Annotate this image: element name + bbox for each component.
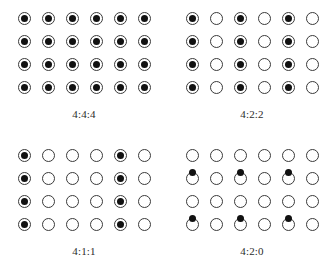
luma-sample-circle-icon: [114, 172, 127, 185]
luma-sample-circle-icon: [186, 35, 199, 48]
luma-sample-circle-icon: [114, 12, 127, 25]
sample-cell: [306, 35, 319, 48]
chroma-sample-dot-icon: [189, 38, 196, 45]
chroma-sample-dot-icon: [141, 61, 148, 68]
luma-sample-circle-icon: [258, 35, 271, 48]
luma-sample-circle-icon: [90, 195, 103, 208]
chroma-sample-dot-icon: [45, 84, 52, 91]
chroma-sample-dot-icon: [21, 15, 28, 22]
luma-sample-circle-icon: [42, 218, 55, 231]
chroma-sample-dot-icon: [237, 61, 244, 68]
luma-sample-circle-icon: [18, 172, 31, 185]
luma-sample-circle-icon: [138, 172, 151, 185]
chroma-sample-dot-icon: [117, 175, 124, 182]
luma-sample-circle-icon: [306, 12, 319, 25]
chroma-sample-dot-icon: [21, 38, 28, 45]
sample-grid-444: [0, 12, 168, 104]
luma-sample-circle-icon: [138, 149, 151, 162]
sample-cell: [306, 58, 319, 71]
sample-cell: [66, 81, 79, 94]
luma-sample-circle-icon: [186, 12, 199, 25]
sample-cell: [282, 149, 295, 162]
panel-411: 4:1:1: [0, 137, 168, 274]
luma-sample-circle-icon: [210, 218, 223, 231]
luma-sample-circle-icon: [114, 218, 127, 231]
sample-cell: [66, 218, 79, 231]
luma-sample-circle-icon: [258, 195, 271, 208]
chroma-sample-dot-icon: [141, 38, 148, 45]
luma-sample-circle-icon: [114, 35, 127, 48]
luma-sample-circle-icon: [186, 149, 199, 162]
luma-sample-circle-icon: [42, 81, 55, 94]
sample-cell: [258, 12, 271, 25]
luma-sample-circle-icon: [210, 58, 223, 71]
luma-sample-circle-icon: [66, 81, 79, 94]
chroma-sample-dot-icon: [189, 215, 196, 222]
sample-cell: [282, 35, 295, 48]
sample-cell: [18, 12, 31, 25]
luma-sample-circle-icon: [210, 35, 223, 48]
sample-cell: [186, 58, 199, 71]
luma-sample-circle-icon: [42, 12, 55, 25]
luma-sample-circle-icon: [114, 81, 127, 94]
sample-cell: [18, 195, 31, 208]
luma-sample-circle-icon: [258, 58, 271, 71]
luma-sample-circle-icon: [306, 218, 319, 231]
sample-cell: [114, 172, 127, 185]
luma-sample-circle-icon: [282, 12, 295, 25]
luma-sample-circle-icon: [66, 172, 79, 185]
luma-sample-circle-icon: [138, 35, 151, 48]
sample-grid-411: [0, 149, 168, 241]
luma-sample-circle-icon: [210, 172, 223, 185]
sample-cell: [18, 58, 31, 71]
sample-cell: [90, 12, 103, 25]
panel-444: 4:4:4: [0, 0, 168, 137]
luma-sample-circle-icon: [210, 81, 223, 94]
luma-sample-circle-icon: [234, 81, 247, 94]
sample-cell: [210, 195, 223, 208]
sample-cell: [42, 58, 55, 71]
sample-cell: [234, 58, 247, 71]
chroma-sample-dot-icon: [237, 84, 244, 91]
sample-cell: [210, 81, 223, 94]
sample-cell: [186, 81, 199, 94]
sample-cell: [306, 218, 319, 231]
sample-cell: [42, 81, 55, 94]
sample-cell: [18, 218, 31, 231]
panel-label-411: 4:1:1: [0, 245, 168, 257]
sample-cell: [138, 35, 151, 48]
sample-cell: [90, 58, 103, 71]
luma-sample-circle-icon: [186, 195, 199, 208]
luma-sample-circle-icon: [282, 81, 295, 94]
sample-cell: [18, 172, 31, 185]
chroma-sample-dot-icon: [21, 198, 28, 205]
chroma-sample-dot-icon: [117, 152, 124, 159]
luma-sample-circle-icon: [90, 35, 103, 48]
chroma-sample-dot-icon: [285, 215, 292, 222]
sample-cell: [210, 35, 223, 48]
luma-sample-circle-icon: [138, 218, 151, 231]
sample-cell: [18, 35, 31, 48]
chroma-sample-dot-icon: [117, 84, 124, 91]
luma-sample-circle-icon: [282, 149, 295, 162]
luma-sample-circle-icon: [18, 195, 31, 208]
luma-sample-circle-icon: [18, 218, 31, 231]
luma-sample-circle-icon: [258, 149, 271, 162]
luma-sample-circle-icon: [186, 58, 199, 71]
luma-sample-circle-icon: [138, 58, 151, 71]
luma-sample-circle-icon: [258, 172, 271, 185]
luma-sample-circle-icon: [306, 81, 319, 94]
luma-sample-circle-icon: [234, 58, 247, 71]
sample-cell: [282, 58, 295, 71]
sample-cell: [282, 12, 295, 25]
luma-sample-circle-icon: [66, 35, 79, 48]
luma-sample-circle-icon: [18, 149, 31, 162]
sample-cell: [114, 12, 127, 25]
luma-sample-circle-icon: [234, 35, 247, 48]
chroma-sample-dot-icon: [21, 221, 28, 228]
luma-sample-circle-icon: [210, 149, 223, 162]
sample-cell: [210, 149, 223, 162]
chroma-subsampling-figure: 4:4:4 4:2:2 4:1:1 4:2:0: [0, 0, 336, 274]
sample-cell: [138, 195, 151, 208]
luma-sample-circle-icon: [90, 81, 103, 94]
